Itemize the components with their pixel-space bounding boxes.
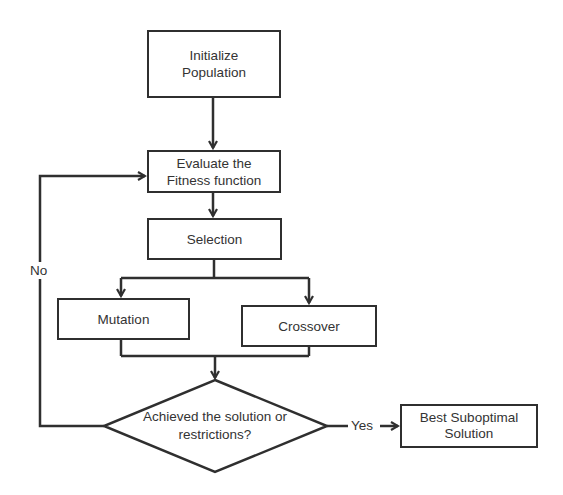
decision-line2: restrictions? xyxy=(95,426,335,444)
decision-line1: Achieved the solution or xyxy=(95,408,335,426)
initialize-population-box: Initialize Population xyxy=(147,30,281,98)
yes-edge-label: Yes xyxy=(351,418,373,433)
best-suboptimal-solution-box: Best Suboptimal Solution xyxy=(400,404,538,448)
crossover-box: Crossover xyxy=(241,305,377,347)
best-suboptimal-label: Best Suboptimal xyxy=(420,410,518,426)
crossover-label: Crossover xyxy=(278,318,340,335)
decision-text: Achieved the solution or restrictions? xyxy=(95,408,335,444)
initialize-label: Initialize xyxy=(182,47,246,64)
selection-box: Selection xyxy=(147,218,282,260)
evaluate-fitness-box: Evaluate the Fitness function xyxy=(147,150,281,193)
selection-label: Selection xyxy=(187,231,243,248)
evaluate-label: Evaluate the xyxy=(167,155,262,172)
mutation-box: Mutation xyxy=(57,298,190,340)
no-edge-label: No xyxy=(30,262,47,279)
solution-label: Solution xyxy=(420,426,518,442)
population-label: Population xyxy=(182,64,246,81)
fitness-function-label: Fitness function xyxy=(167,172,262,189)
mutation-label: Mutation xyxy=(98,311,150,328)
